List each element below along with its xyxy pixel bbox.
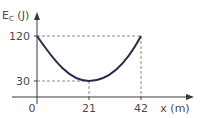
y-tick-label-120: 120 [9,30,30,43]
x-tick-label-42: 42 [134,102,148,115]
x-axis-arrow-icon [186,94,194,100]
y-axis-label: EC (J) [2,9,29,23]
x-tick-label-0: 0 [29,102,36,115]
y-tick-label-30: 30 [16,75,30,88]
chart: EC (J) 120 30 0 21 42 x (m) [0,0,201,118]
x-tick-label-21: 21 [82,102,96,115]
energy-curve [37,36,141,81]
y-axis-arrow-icon [34,12,40,20]
x-axis-label: x (m) [160,102,189,115]
